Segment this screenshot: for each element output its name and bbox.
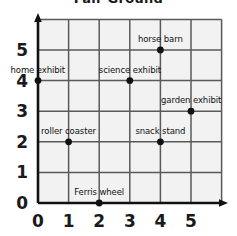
point-label: roller coaster (41, 127, 96, 136)
grid-cell (191, 111, 222, 142)
y-axis-tick-label: 2 (4, 134, 28, 151)
grid-cell (38, 142, 69, 173)
grid-cell (38, 81, 69, 112)
grid-cell (160, 142, 191, 173)
y-axis-tick-label: 0 (4, 195, 28, 212)
point-label: Ferris wheel (74, 188, 124, 197)
point-label: science exhibit (99, 66, 161, 75)
coordinate-grid-plot: Fair Ground 012345 012345 home exhibitsc… (0, 0, 237, 236)
x-axis-tick-label: 2 (84, 213, 114, 230)
data-point (126, 77, 133, 84)
point-label: home exhibit (11, 66, 66, 75)
y-axis-tick-label: 3 (4, 103, 28, 120)
data-point (65, 138, 72, 145)
data-point (157, 138, 164, 145)
grid-cell (99, 19, 130, 50)
grid-cell (160, 172, 191, 203)
x-axis-tick-label: 4 (145, 213, 175, 230)
x-axis-tick-label: 0 (23, 213, 53, 230)
point-label: garden exhibit (161, 96, 221, 105)
grid-cell (69, 81, 100, 112)
grid-cell (38, 172, 69, 203)
grid-cell (130, 172, 161, 203)
y-axis-tick-label: 5 (4, 42, 28, 59)
data-point (188, 108, 195, 115)
grid-cell (191, 142, 222, 173)
x-axis-tick-label: 5 (176, 213, 206, 230)
grid-cell (191, 50, 222, 81)
data-point (35, 77, 42, 84)
grid-cell (69, 142, 100, 173)
grid-cell (99, 111, 130, 142)
grid-canvas (0, 0, 237, 236)
grid-cell (160, 50, 191, 81)
data-point (157, 47, 164, 54)
y-axis-tick-label: 1 (4, 164, 28, 181)
x-axis-tick-label: 3 (115, 213, 145, 230)
data-point (96, 200, 103, 207)
y-axis-tick-label: 4 (4, 73, 28, 90)
grid-cell (130, 81, 161, 112)
grid-cell (69, 19, 100, 50)
x-axis-tick-label: 1 (54, 213, 84, 230)
grid-cell (99, 81, 130, 112)
grid-cell (130, 142, 161, 173)
grid-cell (38, 19, 69, 50)
grid-cell (69, 50, 100, 81)
grid-cell (191, 172, 222, 203)
grid-cell (99, 142, 130, 173)
point-label: snack stand (135, 127, 185, 136)
point-label: horse barn (138, 35, 183, 44)
grid-cell (191, 19, 222, 50)
